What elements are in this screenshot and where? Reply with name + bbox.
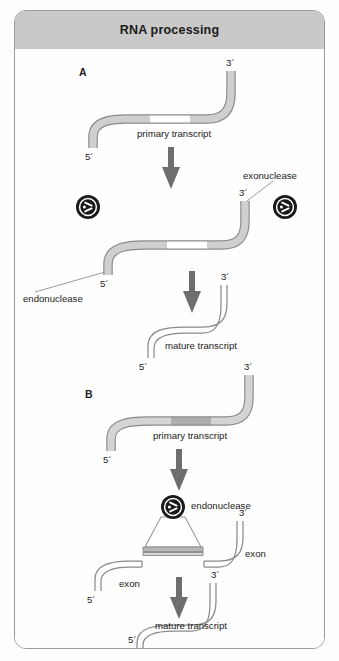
panel-b-arrow-1	[170, 449, 188, 491]
endonuclease-leader-line	[35, 272, 105, 292]
panel-header: RNA processing	[15, 11, 324, 50]
figure-panel: RNA processing	[14, 10, 325, 649]
panel-a-cleaved-3prime: 3´	[239, 187, 248, 198]
exonuclease-icon-right	[273, 195, 297, 219]
panel-b-exon-left-5prime: 5´	[87, 594, 96, 605]
endonuclease-funnel	[145, 517, 201, 547]
panel-b-primary-transcript-label: primary transcript	[153, 431, 227, 441]
page-title: RNA processing	[120, 23, 220, 37]
panel-b-mature-3prime: 3´	[211, 569, 220, 580]
rna-processing-figure: RNA processing	[0, 0, 339, 661]
panel-b-letter: B	[85, 389, 93, 400]
panel-a-mature-5prime: 5´	[139, 361, 148, 372]
panel-a-primary-5prime: 5´	[85, 151, 94, 162]
endonuclease-icon-center	[161, 495, 185, 519]
panel-a-primary-3prime: 3´	[226, 57, 235, 68]
endonuclease-label: endonuclease	[23, 294, 83, 304]
panel-b-arrow-2	[170, 577, 188, 619]
diagram-canvas: A 3´ 5´ primary transcript exonuclease 3…	[15, 49, 324, 649]
panel-a-mature-3prime: 3´	[221, 271, 230, 282]
panel-b-exon-right	[204, 521, 243, 567]
panel-b-primary-3prime: 3´	[244, 361, 253, 372]
panel-b-exon-left-label: exon	[119, 579, 140, 589]
panel-a-primary-transcript-label: primary transcript	[137, 129, 211, 139]
panel-b-mature-transcript-label: mature transcript	[155, 621, 227, 631]
panel-b-exon-right-3prime: 3´	[239, 507, 248, 518]
panel-b-exon-right-label: exon	[245, 549, 266, 559]
panel-a-cleaved-5prime: 5´	[100, 278, 109, 289]
panel-a-mature-transcript-label: mature transcript	[165, 341, 237, 351]
panel-a-arrow-2	[183, 271, 201, 313]
panel-a-letter: A	[79, 67, 87, 78]
panel-a-arrow-1	[162, 147, 180, 189]
panel-b-primary-5prime: 5´	[103, 454, 112, 465]
panel-b-endonuclease-group	[143, 517, 203, 556]
panel-b-mature-5prime: 5´	[128, 634, 137, 645]
panel-a-cleaved-transcript	[108, 201, 245, 275]
excised-intron-bar	[143, 547, 203, 552]
exonuclease-leader-line	[247, 181, 273, 201]
exonuclease-label: exonuclease	[243, 171, 297, 181]
endonuclease-icon-left	[76, 195, 100, 219]
